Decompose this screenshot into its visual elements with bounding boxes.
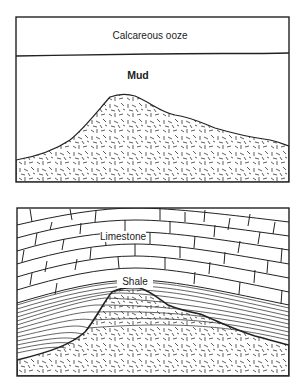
mud-mound bbox=[16, 94, 289, 182]
geology-diagram: Calcareous ooze Mud bbox=[0, 0, 306, 390]
bottom-panel: Limestone Shale bbox=[17, 208, 289, 376]
label-mud: Mud bbox=[127, 69, 149, 81]
top-panel: Calcareous ooze Mud bbox=[16, 17, 289, 182]
label-limestone: Limestone bbox=[100, 231, 147, 242]
label-shale: Shale bbox=[122, 276, 148, 287]
ooze-mud-boundary bbox=[16, 53, 289, 56]
label-calcareous-ooze: Calcareous ooze bbox=[112, 30, 187, 41]
